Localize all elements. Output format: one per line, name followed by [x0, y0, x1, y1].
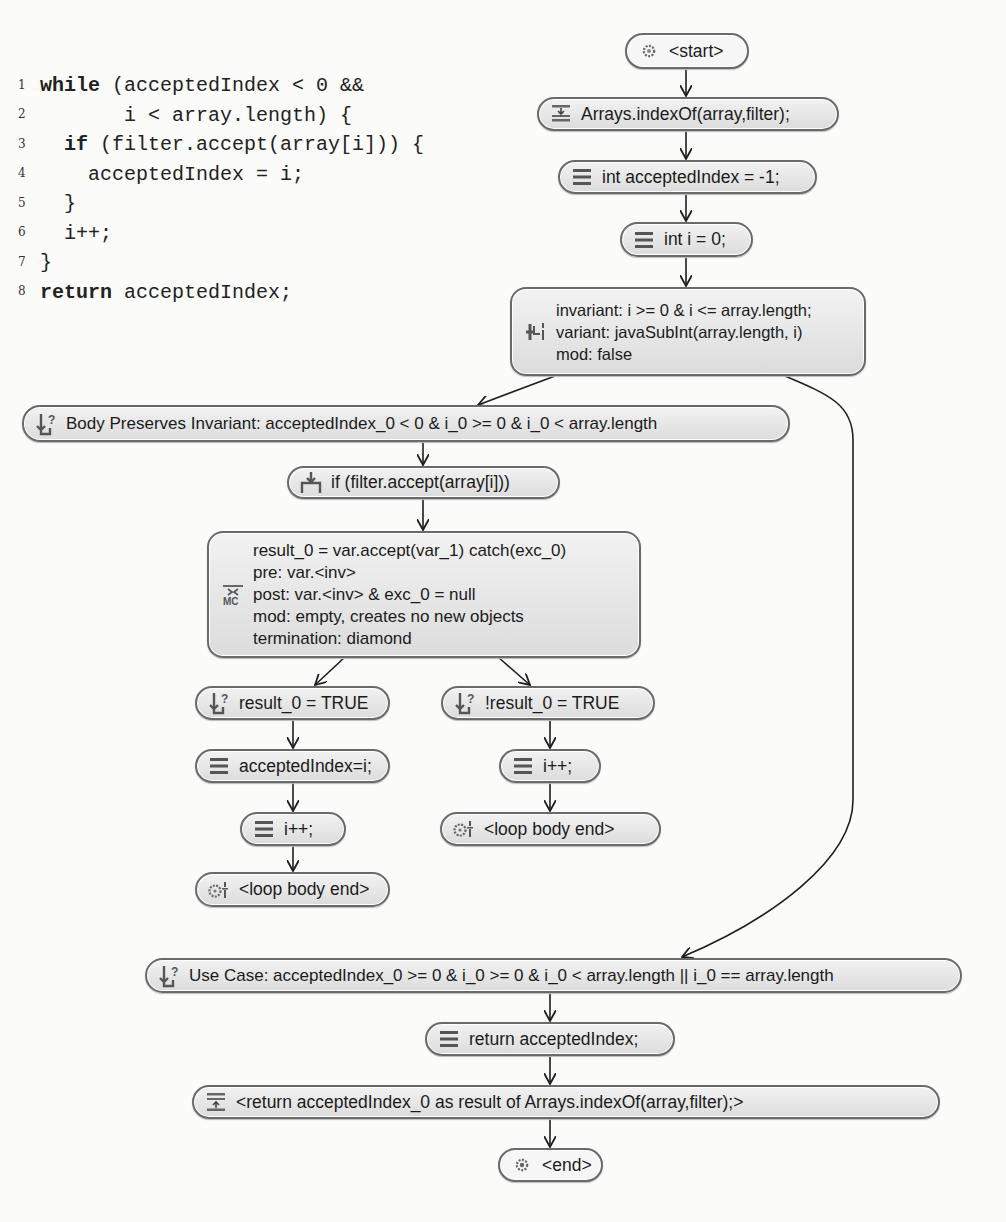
loop-body-end-icon: [207, 878, 231, 902]
svg-text:?: ?: [467, 692, 474, 706]
branch-condition-icon: ?: [453, 691, 477, 715]
node-label: return acceptedIndex;: [469, 1029, 638, 1050]
node-start[interactable]: <start>: [625, 33, 749, 69]
branch-condition-icon: ?: [207, 691, 231, 715]
node-method-contract[interactable]: MC result_0 = var.accept(var_1) catch(ex…: [207, 531, 641, 658]
node-label: int acceptedIndex = -1;: [602, 167, 780, 188]
method-contract-icon: MC: [221, 583, 245, 607]
contract-termination-line: termination: diamond: [253, 628, 566, 650]
end-icon: [510, 1153, 534, 1177]
contract-result-line: result_0 = var.accept(var_1) catch(exc_0…: [253, 540, 566, 562]
node-method-return[interactable]: <return acceptedIndex_0 as result of Arr…: [192, 1085, 940, 1119]
method-call-icon: [549, 102, 573, 126]
node-label: i++;: [284, 819, 313, 840]
statement-icon: [437, 1027, 461, 1051]
node-label: <loop body end>: [484, 819, 614, 840]
node-label: Arrays.indexOf(array,filter);: [581, 104, 790, 125]
node-init-accepted-index[interactable]: int acceptedIndex = -1;: [558, 160, 817, 194]
branch-condition-icon: ?: [34, 412, 58, 436]
node-label: <start>: [669, 41, 723, 62]
node-condition-true[interactable]: ? result_0 = TRUE: [195, 686, 390, 720]
branch-condition-icon: ?: [157, 964, 181, 988]
statement-icon: [632, 228, 656, 252]
gear-icon: [637, 39, 661, 63]
edge-contract-false: [498, 657, 530, 685]
node-label: Body Preserves Invariant: acceptedIndex_…: [66, 414, 657, 434]
node-increment-right[interactable]: i++;: [499, 749, 601, 783]
node-label: i++;: [543, 756, 572, 777]
mod-line: mod: false: [556, 343, 812, 365]
node-label: <loop body end>: [239, 879, 369, 900]
node-loop-invariant[interactable]: invariant: i >= 0 & i <= array.length; v…: [510, 287, 866, 376]
node-use-case[interactable]: ? Use Case: acceptedIndex_0 >= 0 & i_0 >…: [145, 958, 962, 993]
svg-text:?: ?: [48, 413, 55, 427]
contract-mod-line: mod: empty, creates no new objects: [253, 606, 566, 628]
edge-contract-true: [315, 657, 345, 685]
node-increment-left[interactable]: i++;: [240, 812, 346, 846]
variant-line: variant: javaSubInt(array.length, i): [556, 321, 812, 343]
node-loop-body-end-right[interactable]: <loop body end>: [440, 812, 661, 846]
node-return-statement[interactable]: return acceptedIndex;: [425, 1022, 675, 1056]
contract-post-line: post: var.<inv> & exc_0 = null: [253, 584, 566, 606]
loop-body-end-icon: [452, 817, 476, 841]
node-label: if (filter.accept(array[i])): [331, 472, 510, 493]
svg-text:MC: MC: [223, 596, 239, 607]
node-label: result_0 = TRUE: [239, 693, 369, 714]
node-label: <return acceptedIndex_0 as result of Arr…: [236, 1092, 743, 1113]
svg-text:?: ?: [171, 965, 178, 979]
node-method-call[interactable]: Arrays.indexOf(array,filter);: [537, 97, 839, 131]
node-body-preserves-invariant[interactable]: ? Body Preserves Invariant: acceptedInde…: [22, 405, 790, 442]
node-loop-body-end-left[interactable]: <loop body end>: [195, 872, 390, 907]
method-return-icon: [204, 1090, 228, 1114]
statement-icon: [511, 754, 535, 778]
node-assign-accepted-index[interactable]: acceptedIndex=i;: [195, 749, 390, 783]
node-if-statement[interactable]: if (filter.accept(array[i])): [287, 466, 560, 499]
node-label: acceptedIndex=i;: [239, 756, 372, 777]
contract-pre-line: pre: var.<inv>: [253, 562, 566, 584]
edge-loop-usecase: [682, 376, 853, 957]
node-label: Use Case: acceptedIndex_0 >= 0 & i_0 >= …: [189, 966, 834, 986]
method-contract-spec: result_0 = var.accept(var_1) catch(exc_0…: [253, 540, 566, 650]
node-label: !result_0 = TRUE: [485, 693, 619, 714]
edge-loop-body: [478, 376, 555, 405]
svg-text:?: ?: [221, 692, 228, 706]
node-label: int i = 0;: [664, 229, 726, 250]
node-condition-false[interactable]: ? !result_0 = TRUE: [441, 686, 655, 720]
node-end[interactable]: <end>: [498, 1148, 603, 1182]
statement-icon: [252, 817, 276, 841]
loop-invariant-icon: [524, 320, 548, 344]
branch-statement-icon: [299, 471, 323, 495]
loop-invariant-spec: invariant: i >= 0 & i <= array.length; v…: [556, 299, 812, 365]
node-init-i[interactable]: int i = 0;: [620, 222, 753, 257]
node-label: <end>: [542, 1155, 592, 1176]
invariant-line: invariant: i >= 0 & i <= array.length;: [556, 299, 812, 321]
statement-icon: [207, 754, 231, 778]
statement-icon: [570, 165, 594, 189]
